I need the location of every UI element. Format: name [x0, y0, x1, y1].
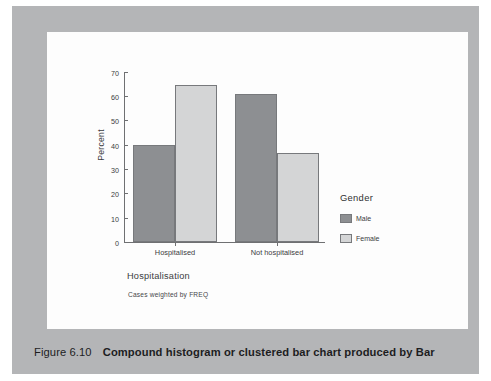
clustered-bar-chart: 0 10 20 30 40 50 60 70 Percen — [100, 60, 440, 310]
x-tick-hospitalised — [175, 242, 176, 246]
bar-hospitalised-female — [175, 85, 217, 242]
legend-label-male: Male — [356, 215, 371, 222]
x-axis-line — [124, 242, 325, 243]
legend-title: Gender — [340, 192, 436, 203]
y-tick-label: 20 — [111, 189, 119, 198]
y-tick-label: 50 — [111, 116, 119, 125]
x-axis-title: Hospitalisation — [127, 271, 190, 281]
y-tick-label: 60 — [111, 92, 119, 101]
y-tick-label: 30 — [111, 165, 119, 174]
figure-caption-text: Compound histogram or clustered bar char… — [103, 346, 435, 358]
y-tick-label: 40 — [111, 141, 119, 150]
legend-item-female: Female — [340, 234, 436, 243]
figure-caption: Figure 6.10 Compound histogram or cluste… — [12, 330, 479, 374]
x-tick-not-hospitalised — [277, 242, 278, 246]
bars-layer — [125, 72, 325, 242]
bar-hospitalised-male — [133, 145, 175, 242]
legend-swatch-female-icon — [340, 234, 352, 243]
legend-swatch-male-icon — [340, 214, 352, 223]
y-tick-0: 0 — [124, 242, 128, 243]
legend-label-female: Female — [356, 235, 379, 242]
x-category-label: Hospitalised — [155, 248, 195, 257]
page: 0 10 20 30 40 50 60 70 Percen — [0, 0, 491, 381]
figure-number: Figure 6.10 — [34, 346, 92, 358]
y-axis-title: Percent — [96, 100, 106, 190]
y-tick-label: 10 — [111, 214, 119, 223]
chart-footnote: Cases weighted by FREQ — [128, 291, 208, 298]
y-tick-label: 70 — [111, 68, 119, 77]
bar-not-hospitalised-female — [277, 153, 319, 242]
x-category-label: Not hospitalised — [251, 248, 304, 257]
y-tick-label: 0 — [115, 238, 119, 247]
bar-not-hospitalised-male — [235, 94, 277, 242]
legend-item-male: Male — [340, 214, 436, 223]
legend: Gender Male Female — [340, 192, 436, 254]
